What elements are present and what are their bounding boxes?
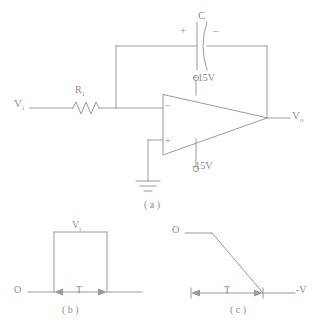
circuit-diagram-svg — [0, 0, 322, 335]
ramp-duration-arrow-left — [191, 290, 200, 297]
capacitor-plus-sign: + — [180, 25, 186, 36]
opamp-triangle — [163, 95, 267, 155]
input-voltage-label: Vi — [14, 98, 24, 112]
pulse-origin-label: O — [14, 285, 21, 295]
pulse-duration-label: T — [76, 285, 82, 295]
ramp-final-value-label: -V — [296, 285, 307, 295]
opamp-noninverting-input-label: + — [165, 136, 171, 146]
ramp-descending-line — [212, 233, 263, 293]
ramp-duration-label: T — [224, 285, 230, 295]
resistor-symbol — [73, 102, 99, 114]
output-voltage-label: Vo — [292, 110, 303, 124]
panel-b-caption: ( b ) — [62, 305, 79, 315]
figure-container: Vi R1 C + – +15V -15V – + Vo ( a ) Vi O … — [0, 0, 322, 335]
panel-a-caption: ( a ) — [144, 200, 160, 210]
ramp-origin-label: O — [172, 225, 179, 235]
pulse-duration-arrow-left — [54, 289, 63, 296]
panel-c-caption: ( c ) — [230, 305, 246, 315]
resistor-label: R1 — [75, 85, 85, 97]
pulse-amplitude-label: Vi — [72, 220, 81, 232]
supply-negative-label: -15V — [192, 161, 213, 171]
capacitor-label: C — [198, 10, 205, 21]
pulse-duration-arrow-right — [98, 289, 107, 296]
supply-positive-label: +15V — [192, 73, 215, 83]
capacitor-plate-right — [203, 22, 207, 70]
capacitor-minus-sign: – — [213, 25, 219, 36]
opamp-inverting-input-label: – — [165, 100, 170, 110]
ramp-duration-arrow-right — [254, 290, 263, 297]
